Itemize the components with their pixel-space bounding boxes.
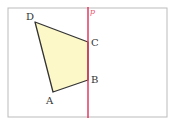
vertex-label-d: D xyxy=(26,11,34,22)
vertex-label-b: B xyxy=(91,74,98,85)
diagram-canvas: p A B C D xyxy=(0,0,178,120)
vertex-label-a: A xyxy=(45,95,54,106)
vertex-label-c: C xyxy=(91,37,99,48)
line-label-p: p xyxy=(90,7,95,16)
